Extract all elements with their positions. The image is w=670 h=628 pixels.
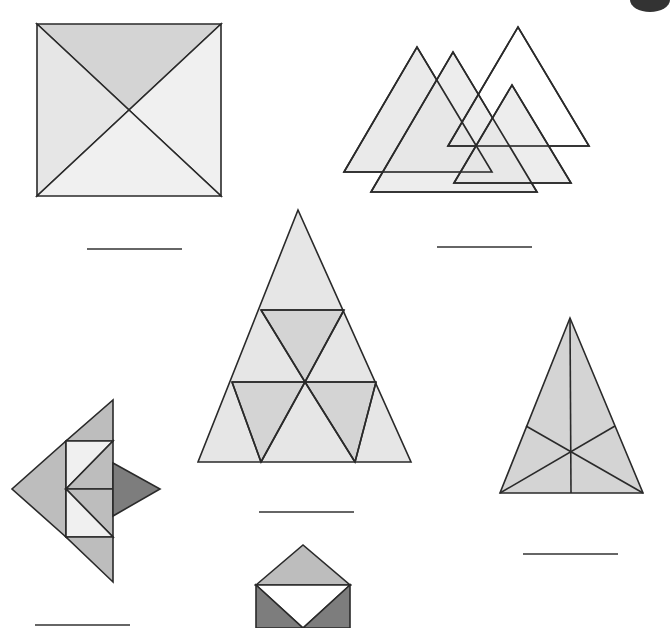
shape-region bbox=[256, 545, 350, 585]
shape-region bbox=[113, 463, 160, 516]
shape-region bbox=[12, 441, 66, 537]
worksheet-page bbox=[0, 0, 670, 628]
figure-median-triangle bbox=[500, 318, 643, 493]
figure-square-with-diagonals bbox=[37, 24, 221, 196]
triangle-counting-worksheet bbox=[0, 0, 670, 628]
division-line bbox=[570, 318, 571, 493]
figure-fish-shape bbox=[12, 400, 160, 582]
figure-envelope-shape bbox=[256, 545, 350, 628]
corner-decoration bbox=[630, 0, 670, 12]
figure-overlapping-triangles bbox=[344, 27, 589, 192]
shape-region bbox=[66, 537, 113, 582]
figure-subdivided-triangle bbox=[198, 210, 411, 462]
shape-region bbox=[66, 400, 113, 441]
